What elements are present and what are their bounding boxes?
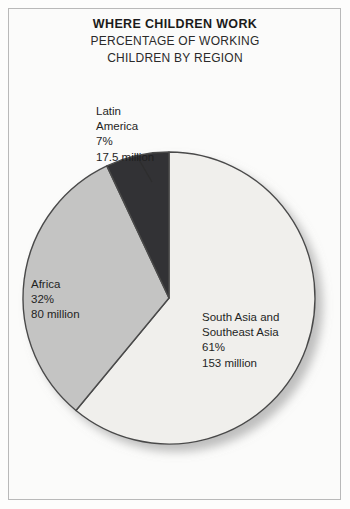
africa-name: Africa xyxy=(31,277,80,292)
pie-chart-figure: WHERE CHILDREN WORK PERCENTAGE OF WORKIN… xyxy=(0,0,350,509)
slice-label-latin-america: Latin America 7% 17.5 million xyxy=(96,104,154,165)
africa-count: 80 million xyxy=(31,307,80,322)
south-asia-name-line-1: South Asia and xyxy=(202,310,279,325)
south-asia-percent: 61% xyxy=(202,340,279,355)
slice-label-africa: Africa 32% 80 million xyxy=(31,277,80,323)
south-asia-count: 153 million xyxy=(202,356,279,371)
latin-america-percent: 7% xyxy=(96,134,154,149)
south-asia-name-line-2: Southeast Asia xyxy=(202,325,279,340)
latin-america-count: 17.5 million xyxy=(96,150,154,165)
latin-america-name-line-2: America xyxy=(96,119,154,134)
latin-america-name-line-1: Latin xyxy=(96,104,154,119)
slice-label-south-asia: South Asia and Southeast Asia 61% 153 mi… xyxy=(202,310,279,371)
pie-chart xyxy=(0,0,350,509)
africa-percent: 32% xyxy=(31,292,80,307)
